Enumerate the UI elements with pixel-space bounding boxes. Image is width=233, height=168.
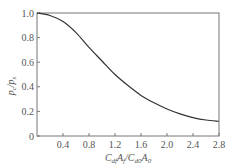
x-tick-label: 0.4 [57,139,70,150]
x-tick-label: 0.8 [83,139,96,150]
x-axis-label: CdfAf/Cd0A0 [105,152,152,165]
data-line [37,13,219,121]
x-tick-label: 2.8 [213,139,226,150]
y-tick-label: 0 [29,131,34,142]
x-tick-label: 2.4 [187,139,200,150]
x-tick-label: 1.2 [109,139,122,150]
chart: 00.20.40.60.81.0 0.40.81.21.62.02.42.8 p… [0,0,233,168]
y-tick-label: 0.2 [22,106,35,117]
y-tick-label: 0.8 [22,32,35,43]
y-tick-label: 0.6 [22,57,35,68]
x-tick-label: 1.6 [135,139,148,150]
y-axis-label: pc/ps [5,76,18,96]
x-tick-label: 2.0 [161,139,174,150]
y-tick-label: 1.0 [22,8,35,19]
y-tick-label: 0.4 [22,81,35,92]
